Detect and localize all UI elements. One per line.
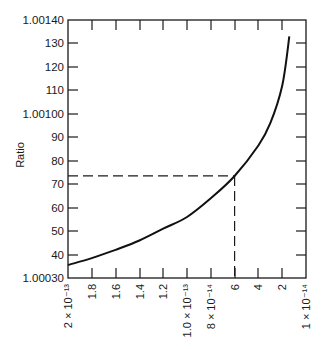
x-tick-label: 1.6 (110, 284, 122, 299)
ratio-chart: 1.001401301201101.001009080706050401.000… (0, 0, 325, 349)
y-tick-label: 40 (51, 249, 64, 261)
y-tick-label: 110 (46, 84, 64, 96)
y-tick-label: 60 (51, 202, 64, 214)
x-tick-label: 1.4 (134, 284, 146, 299)
y-axis-title: Ratio (14, 142, 26, 168)
y-tick-label: 90 (51, 131, 64, 143)
ratio-curve (68, 36, 289, 265)
x-tick-label: 1.2 (157, 284, 169, 299)
x-tick-label: 1.0 × 10⁻¹³ (181, 284, 193, 338)
plot-frame (68, 20, 306, 278)
x-tick-label: 2 × 10⁻¹³ (62, 284, 74, 329)
x-tick-label: 1 × 10⁻¹⁴ (300, 284, 312, 330)
y-tick-label: 1.00140 (22, 14, 64, 26)
x-tick-label: 2 (276, 284, 288, 290)
y-tick-label: 50 (51, 225, 64, 237)
y-tick-label: 130 (45, 37, 64, 49)
y-tick-label: 80 (51, 155, 64, 167)
x-axis-ticks: 2 × 10⁻¹³1.81.61.41.21.0 × 10⁻¹³8 × 10⁻¹… (62, 20, 312, 337)
y-tick-label: 120 (45, 61, 64, 73)
x-tick-label: 4 (252, 284, 264, 290)
x-tick-label: 8 × 10⁻¹⁴ (205, 284, 217, 330)
x-tick-label: 1.8 (86, 284, 98, 299)
x-tick-label: 6 (229, 284, 241, 290)
y-tick-label: 1.00100 (22, 108, 64, 120)
y-tick-label: 70 (51, 178, 64, 190)
y-tick-label: 1.00030 (22, 272, 64, 284)
y-axis-ticks: 1.001401301201101.001009080706050401.000… (22, 14, 306, 284)
